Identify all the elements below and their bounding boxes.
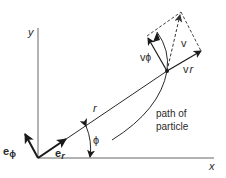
v-arrow (167, 15, 180, 71)
polar-velocity-diagram: y x r er eϕ ϕ path of particle v vr vϕ (0, 0, 226, 178)
v-phi-label: vϕ (140, 51, 152, 63)
e-r-label: er (55, 147, 65, 161)
path-arrowhead (153, 32, 160, 42)
x-axis-label: x (208, 160, 215, 172)
path-label-line1: path of (156, 108, 187, 119)
e-phi-arrow (25, 134, 38, 158)
v-label: v (181, 37, 187, 49)
dashed-box-left (147, 12, 181, 36)
y-axis-label: y (27, 26, 35, 38)
diagram-canvas: y x r er eϕ ϕ path of particle v vr vϕ (0, 0, 226, 178)
path-label-line2: particle (156, 121, 189, 132)
r-label: r (93, 102, 98, 114)
phi-angle-label: ϕ (93, 134, 99, 146)
v-r-label: vr (183, 63, 195, 75)
e-phi-label: eϕ (3, 145, 16, 159)
phi-angle-arc (86, 126, 91, 157)
